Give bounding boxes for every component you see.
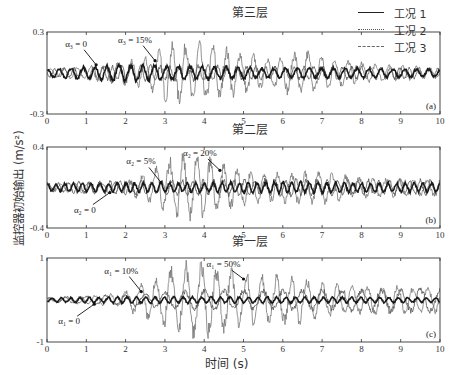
x-tick-label: 9 (398, 230, 403, 240)
x-tick-label: 10 (436, 230, 446, 240)
dotted-line-icon (358, 29, 384, 30)
legend-label: 工况 2 (394, 22, 427, 38)
x-tick-label: 3 (163, 230, 168, 240)
panel-b-title: 第二层 (232, 120, 268, 137)
annotation-label: α₁ = 10% (104, 266, 138, 276)
legend: 工况 1 工况 2 工况 3 (358, 4, 427, 55)
annotation-label: α₂ = 20% (183, 148, 217, 158)
x-axis-label: 时间 (s) (205, 354, 248, 371)
x-tick-label: 10 (436, 116, 446, 126)
x-tick-label: 2 (123, 230, 128, 240)
x-tick-label: 3 (163, 116, 168, 126)
x-tick-label: 1 (84, 116, 89, 126)
x-tick-label: 4 (202, 230, 207, 240)
y-tick-label: -0.4 (30, 223, 45, 233)
panel-tag: (a) (426, 101, 436, 111)
x-tick-label: 9 (398, 344, 403, 354)
chart-figure: 0123456789100.3-0.3(a)α₃ = 0α₃ = 15%0123… (0, 0, 451, 375)
panel-b: 0123456789100.4-0.4(b)α₂ = 0α₂ = 5%α₂ = … (30, 142, 445, 240)
x-tick-label: 7 (320, 230, 325, 240)
legend-label: 工况 3 (394, 39, 427, 55)
x-tick-label: 6 (281, 116, 286, 126)
x-tick-label: 0 (45, 230, 50, 240)
y-tick-label: 1 (40, 253, 45, 263)
x-tick-label: 9 (398, 116, 403, 126)
panel-tag: (c) (426, 329, 436, 339)
x-tick-label: 6 (281, 344, 286, 354)
panel-tag: (b) (426, 215, 437, 225)
y-axis-label: 监控器初始输出 (m/s²) (10, 108, 26, 268)
x-tick-label: 3 (163, 344, 168, 354)
legend-item-case1: 工况 1 (358, 4, 427, 21)
annotation-label: α₂ = 5% (126, 156, 156, 166)
x-tick-label: 7 (320, 344, 325, 354)
y-tick-label: -0.3 (30, 109, 45, 119)
x-tick-label: 1 (84, 344, 89, 354)
panel-c-title: 第一层 (232, 232, 268, 249)
x-tick-label: 8 (359, 230, 364, 240)
annotation-label: α₁ = 0 (58, 316, 80, 326)
x-tick-label: 7 (320, 116, 325, 126)
annotation-label: α₃ = 0 (65, 39, 87, 49)
annotation-label: α₃ = 15% (118, 35, 152, 45)
legend-item-case2: 工况 2 (358, 21, 427, 38)
annotation-label: α₂ = 0 (74, 205, 96, 215)
annotation-label: α₁ = 50% (207, 259, 241, 269)
x-tick-label: 0 (45, 344, 50, 354)
panel-a-title: 第三层 (232, 3, 268, 20)
y-tick-label: -1 (37, 337, 45, 347)
x-tick-label: 2 (123, 344, 128, 354)
series-solid (47, 297, 440, 304)
x-tick-label: 6 (281, 230, 286, 240)
legend-label: 工况 1 (394, 5, 427, 21)
panel-c: 0123456789101-1(c)α₁ = 0α₁ = 10%α₁ = 50% (37, 253, 446, 354)
solid-line-icon (358, 12, 384, 13)
y-tick-label: 0.4 (33, 142, 45, 152)
x-tick-label: 8 (359, 344, 364, 354)
x-tick-label: 4 (202, 116, 207, 126)
x-tick-label: 4 (202, 344, 207, 354)
x-tick-label: 0 (45, 116, 50, 126)
x-tick-label: 5 (241, 344, 246, 354)
y-tick-label: 0.3 (33, 27, 45, 37)
dashed-line-icon (358, 46, 384, 47)
x-tick-label: 1 (84, 230, 89, 240)
x-tick-label: 10 (436, 344, 446, 354)
legend-item-case3: 工况 3 (358, 38, 427, 55)
x-tick-label: 2 (123, 116, 128, 126)
x-tick-label: 8 (359, 116, 364, 126)
